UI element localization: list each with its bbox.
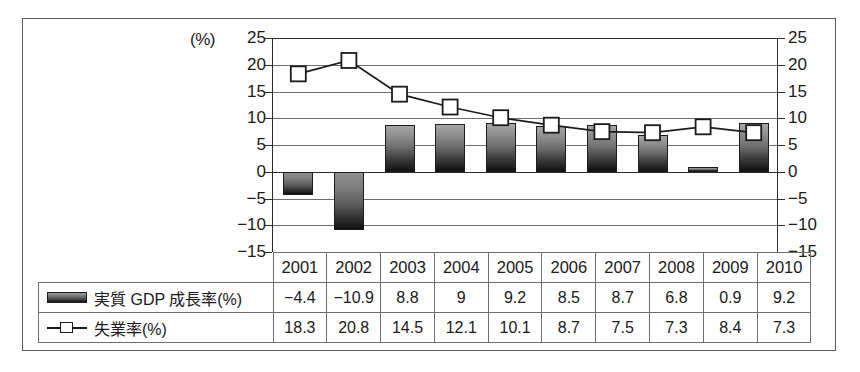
marker-2002 [341, 53, 356, 68]
marker-2003 [392, 87, 407, 102]
line-series-unemployment [273, 38, 779, 252]
unemployment-markers [291, 53, 761, 140]
table-corner-cell [39, 253, 274, 283]
y-tick-left-20: 20 [247, 56, 266, 73]
table-cell-2003: 14.5 [381, 313, 435, 343]
y-tick-left--5: −5 [247, 190, 266, 207]
tickmark-l-15 [265, 92, 272, 93]
tickmark-l-0 [265, 172, 272, 173]
legend-label-text: 失業率(%) [94, 321, 167, 338]
line-square-swatch-icon [47, 321, 87, 334]
tickmark-l-20 [265, 65, 272, 66]
tickmark-r-15 [778, 92, 785, 93]
tickmark-r--10 [778, 225, 785, 226]
y-tick-right-15: 15 [788, 83, 807, 100]
tickmark-r-0 [778, 172, 785, 173]
table-year-header-2001: 2001 [273, 253, 327, 283]
y-tick-right--5: −5 [788, 190, 807, 207]
tickmark-l-10 [265, 118, 272, 119]
tickmark-r--5 [778, 199, 785, 200]
y-tick-right-10: 10 [788, 109, 807, 126]
marker-2001 [291, 66, 306, 81]
unemployment-polyline [298, 60, 753, 132]
table-row: 失業率(%)18.320.814.512.110.18.77.57.38.47.… [39, 313, 811, 343]
table-year-header-2006: 2006 [542, 253, 596, 283]
tickmark-r-25 [778, 38, 785, 39]
table-cell-2006: 8.7 [542, 313, 596, 343]
y-tick-right-20: 20 [788, 56, 807, 73]
table-cell-2010: 9.2 [757, 283, 811, 313]
table-year-header-2002: 2002 [327, 253, 381, 283]
marker-2009 [696, 119, 711, 134]
y-tick-left-15: 15 [247, 83, 266, 100]
data-table: 2001200220032004200520062007200820092010… [38, 252, 811, 343]
table-year-header-2004: 2004 [434, 253, 488, 283]
y-tick-left-25: 25 [247, 29, 266, 46]
table-cell-2010: 7.3 [757, 313, 811, 343]
table-year-header-2005: 2005 [488, 253, 542, 283]
table-year-header-2010: 2010 [757, 253, 811, 283]
y-axis-unit-label: (%) [190, 30, 215, 50]
marker-2006 [544, 118, 559, 133]
y-tick-right-25: 25 [788, 29, 807, 46]
table-year-header-2009: 2009 [703, 253, 757, 283]
marker-2010 [746, 125, 761, 140]
tickmark-r-20 [778, 65, 785, 66]
table-cell-2007: 7.5 [596, 313, 650, 343]
marker-2005 [493, 110, 508, 125]
marker-2007 [594, 124, 609, 139]
tickmark-l-25 [265, 38, 272, 39]
tickmark-l--10 [265, 225, 272, 226]
marker-2004 [443, 100, 458, 115]
table-cell-2002: −10.9 [327, 283, 381, 313]
y-tick-right--10: −10 [788, 216, 817, 233]
tickmark-l--5 [265, 199, 272, 200]
table-series-label-cell: 実質 GDP 成長率(%) [39, 283, 274, 313]
table-cell-2004: 12.1 [434, 313, 488, 343]
table-cell-2008: 7.3 [650, 313, 704, 343]
table-cell-2009: 8.4 [703, 313, 757, 343]
table-cell-2005: 9.2 [488, 283, 542, 313]
table-cell-2003: 8.8 [381, 283, 435, 313]
y-tick-right-5: 5 [788, 136, 797, 153]
y-tick-right-0: 0 [788, 163, 797, 180]
table-cell-2001: −4.4 [273, 283, 327, 313]
tickmark-r-5 [778, 145, 785, 146]
table-cell-2007: 8.7 [596, 283, 650, 313]
table-cell-2004: 9 [434, 283, 488, 313]
tickmark-l-5 [265, 145, 272, 146]
table-year-header-2007: 2007 [596, 253, 650, 283]
chart-figure: (%) 2520151050−5−10−15 2520151050−5−10−1… [0, 0, 860, 372]
tickmark-r-10 [778, 118, 785, 119]
table-series-label-cell: 失業率(%) [39, 313, 274, 343]
y-tick-left-10: 10 [247, 109, 266, 126]
table-year-header-2008: 2008 [650, 253, 704, 283]
table-cell-2002: 20.8 [327, 313, 381, 343]
table-cell-2001: 18.3 [273, 313, 327, 343]
table-cell-2006: 8.5 [542, 283, 596, 313]
legend-label-text: 実質 GDP 成長率(%) [94, 291, 242, 308]
marker-2008 [645, 125, 660, 140]
table-cell-2005: 10.1 [488, 313, 542, 343]
table-cell-2008: 6.8 [650, 283, 704, 313]
table-header-row: 2001200220032004200520062007200820092010 [39, 253, 811, 283]
plot-area [272, 38, 778, 252]
bar-swatch-icon [47, 292, 87, 303]
table-year-header-2003: 2003 [381, 253, 435, 283]
y-tick-left--10: −10 [237, 216, 266, 233]
table-cell-2009: 0.9 [703, 283, 757, 313]
table-row: 実質 GDP 成長率(%)−4.4−10.98.899.28.58.76.80.… [39, 283, 811, 313]
